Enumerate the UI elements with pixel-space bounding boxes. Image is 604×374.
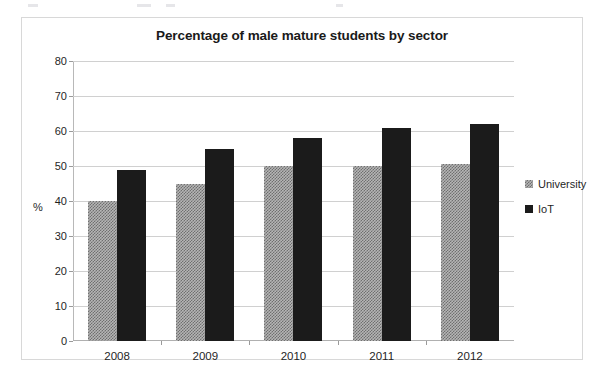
x-tick-mark: [161, 341, 162, 345]
chart-title: Percentage of male mature students by se…: [22, 28, 582, 43]
y-tick-mark: [69, 341, 73, 342]
x-tick-label: 2012: [426, 350, 514, 362]
plot-area: 01020304050607080 20082009201020112012: [73, 61, 514, 341]
y-axis-title: %: [33, 201, 43, 213]
bar-iot-2010: [293, 138, 322, 341]
chart-legend: University IoT: [525, 178, 583, 228]
x-tick-label: 2008: [73, 350, 161, 362]
y-tick-label: 30: [55, 230, 67, 242]
y-tick-label: 10: [55, 300, 67, 312]
x-tick-mark: [426, 341, 427, 345]
legend-swatch-university-icon: [525, 180, 533, 188]
bar-university-2012: [441, 164, 470, 341]
y-tick-label: 60: [55, 125, 67, 137]
y-tick-label: 70: [55, 90, 67, 102]
bar-iot-2011: [382, 128, 411, 342]
bar-university-2010: [264, 166, 293, 341]
bar-iot-2012: [470, 124, 499, 341]
x-tick-label: 2011: [338, 350, 426, 362]
bar-group: 2009: [161, 61, 249, 341]
y-tick-label: 0: [61, 335, 67, 347]
bar-group: 2012: [426, 61, 514, 341]
x-tick-mark: [338, 341, 339, 345]
bar-group: 2011: [338, 61, 426, 341]
legend-label-university: University: [538, 178, 586, 190]
y-tick-label: 40: [55, 195, 67, 207]
bar-university-2008: [88, 201, 117, 341]
legend-item-iot: IoT: [525, 203, 583, 215]
x-tick-label: 2009: [161, 350, 249, 362]
bar-iot-2008: [117, 170, 146, 342]
y-tick-label: 50: [55, 160, 67, 172]
scan-header-remnant: [0, 0, 604, 12]
x-tick-mark: [249, 341, 250, 345]
bar-group: 2010: [249, 61, 337, 341]
legend-item-university: University: [525, 178, 583, 190]
bar-university-2011: [353, 166, 382, 341]
y-tick-label: 20: [55, 265, 67, 277]
bar-group: 2008: [73, 61, 161, 341]
x-tick-label: 2010: [249, 350, 337, 362]
bar-university-2009: [176, 184, 205, 342]
legend-swatch-iot-icon: [525, 205, 533, 213]
legend-label-iot: IoT: [538, 203, 554, 215]
y-tick-label: 80: [55, 55, 67, 67]
bar-iot-2009: [205, 149, 234, 342]
chart-container: Percentage of male mature students by se…: [21, 17, 583, 360]
